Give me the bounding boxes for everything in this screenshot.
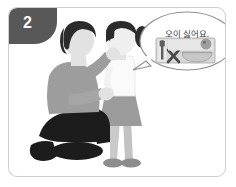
- fork-tines: [160, 41, 165, 47]
- tray-plate-round: [201, 39, 212, 50]
- child-shoe-right: [121, 159, 141, 168]
- speech-bubble: [133, 12, 226, 70]
- illustration-panel: 오이 싫어요. 2: [0, 0, 236, 187]
- food-tray: [156, 38, 215, 63]
- panel-frame: 오이 싫어요. 2: [8, 7, 226, 177]
- child-shoe-left: [103, 159, 123, 168]
- adult-shoe-front: [51, 142, 103, 160]
- speech-bubble-tail: [133, 61, 151, 70]
- speech-bubble-text: 오이 싫어요.: [156, 27, 218, 39]
- adult-hand-lower: [99, 88, 114, 101]
- tray-plate-dot: [203, 41, 206, 44]
- adult-hand-upper: [106, 48, 120, 61]
